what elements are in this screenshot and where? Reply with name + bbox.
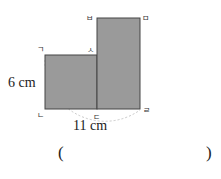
vertex-label-mieum: ㅁ (142, 14, 149, 23)
vertex-label-giyeok: ㄱ (37, 45, 44, 54)
tall-rectangle (97, 18, 140, 109)
answer-close-paren: ) (206, 143, 212, 163)
vertex-label-bieup: ㅂ (86, 14, 93, 23)
vertex-label-nieun: ㄴ (37, 111, 44, 120)
height-measurement: 6 cm (8, 75, 36, 90)
vertex-label-siot: ㅅ (87, 46, 94, 55)
base-arc-measurement: 11 cm (73, 118, 107, 133)
answer-open-paren: ( (58, 143, 64, 163)
vertex-label-rieul: ㄹ (143, 106, 150, 115)
small-rectangle (45, 55, 97, 109)
answer-blank[interactable] (70, 143, 200, 163)
